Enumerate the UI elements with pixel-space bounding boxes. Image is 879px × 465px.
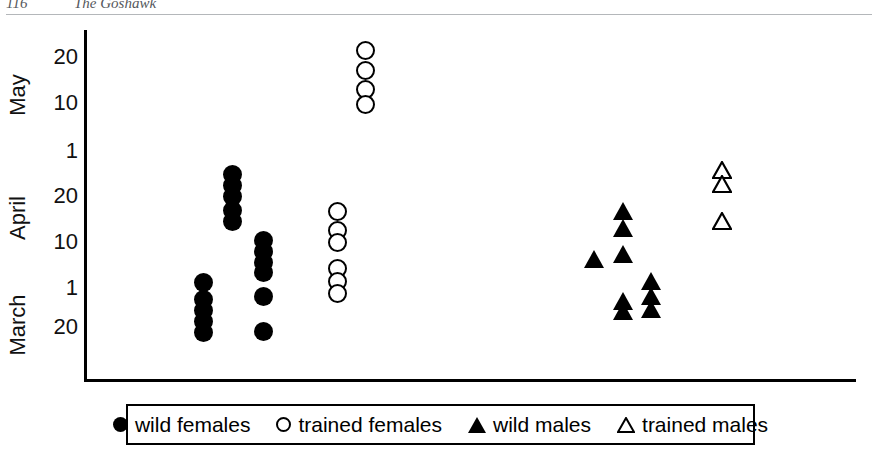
legend-label: wild males [493, 414, 591, 435]
y-axis-month-label: May [7, 25, 29, 165]
data-point-filled-triangle [584, 250, 604, 268]
data-point-open-circle [356, 95, 375, 114]
open-triangle-icon [617, 417, 635, 433]
data-point-filled-circle [194, 273, 213, 292]
legend-item: trained males [617, 414, 768, 435]
data-point-filled-circle [254, 263, 273, 282]
data-point-filled-circle [194, 323, 213, 342]
filled-triangle-icon [468, 417, 486, 433]
open-circle-icon [276, 417, 291, 432]
legend: wild femalestrained femaleswild malestra… [126, 404, 755, 445]
data-point-filled-triangle [613, 245, 633, 263]
data-point-filled-triangle [613, 219, 633, 237]
legend-item: trained females [276, 414, 442, 435]
data-point-filled-circle [223, 212, 242, 231]
data-point-filled-triangle [613, 302, 633, 320]
data-point-open-circle [328, 233, 347, 252]
data-point-open-circle [356, 61, 375, 80]
data-point-filled-triangle [641, 300, 661, 318]
y-axis-month-label: March [7, 255, 29, 395]
data-point-open-triangle [712, 212, 732, 230]
legend-label: trained females [298, 414, 442, 435]
legend-label: trained males [642, 414, 768, 435]
scatter-plot: 201012010120 MayAprilMarch wild femalest… [0, 0, 879, 465]
legend-label: wild females [135, 414, 251, 435]
legend-item: wild males [468, 414, 591, 435]
data-point-open-circle [328, 284, 347, 303]
filled-circle-icon [113, 417, 128, 432]
legend-item: wild females [113, 414, 251, 435]
data-point-open-circle [328, 202, 347, 221]
x-axis-line [84, 379, 856, 382]
data-point-filled-triangle [613, 202, 633, 220]
legend-items: wild femalestrained femaleswild malestra… [128, 406, 753, 443]
data-point-open-circle [356, 41, 375, 60]
data-point-filled-circle [254, 287, 273, 306]
data-point-filled-circle [254, 322, 273, 341]
data-point-open-triangle [712, 175, 732, 193]
y-axis-month-labels: MayAprilMarch [0, 0, 88, 465]
